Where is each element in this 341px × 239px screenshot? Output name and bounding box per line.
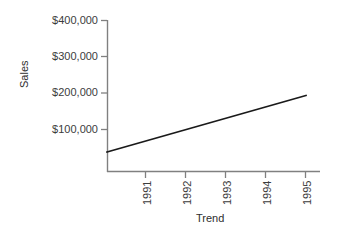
x-axis-ticks: [146, 172, 306, 178]
x-tick-label-1995: 1995: [301, 181, 313, 205]
x-tick-label-1994: 1994: [261, 181, 273, 205]
y-axis-ticks: [101, 21, 107, 130]
trend-line-series: [107, 96, 306, 153]
y-axis-title: Sales: [18, 60, 30, 88]
chart-canvas: [0, 0, 341, 239]
y-tick-label-200000: $200,000: [52, 86, 98, 98]
line-chart: $400,000 $300,000 $200,000 $100,000 1991…: [0, 0, 341, 239]
y-tick-label-100000: $100,000: [52, 123, 98, 135]
x-axis-title: Trend: [196, 212, 224, 224]
y-tick-label-300000: $300,000: [52, 50, 98, 62]
x-tick-label-1992: 1992: [181, 181, 193, 205]
y-tick-label-400000: $400,000: [52, 14, 98, 26]
x-tick-label-1993: 1993: [221, 181, 233, 205]
x-tick-label-1991: 1991: [141, 181, 153, 205]
